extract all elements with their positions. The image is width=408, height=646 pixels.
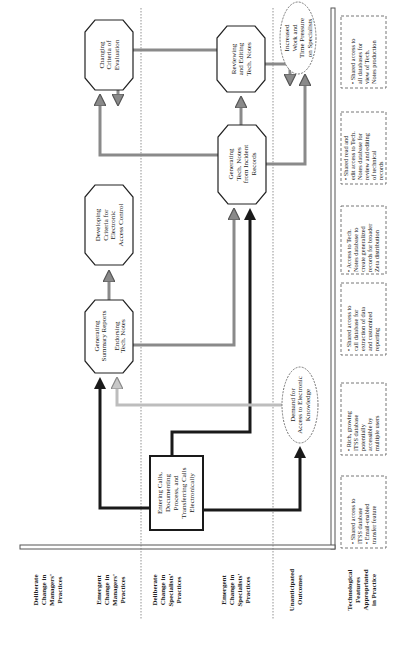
lane-label-deliberate-managers-line: Deliberate xyxy=(32,574,40,605)
arrow-demand-to-summary xyxy=(117,383,282,405)
feature-text-5-line: of technical xyxy=(370,150,377,180)
lane-label-emergent-managers-line: Managers' xyxy=(111,574,119,606)
arrow-entering-to-demand xyxy=(203,452,300,510)
feature-text-6-line: • Shared access to xyxy=(349,39,356,84)
feature-text-4: • Access to Tech. Notes database to crea… xyxy=(345,223,380,272)
lane-label-tech-features-line: Appropriated xyxy=(362,569,370,610)
feature-text-3-line: call database for xyxy=(352,309,359,351)
feature-text-5-line: edit access to Tech. xyxy=(349,131,356,180)
lane-label-tech-features-line: Technological xyxy=(346,569,354,610)
lane-label-unanticipated: UnanticipatedOutcomes xyxy=(288,569,304,612)
feature-text-3-line: extraction of data xyxy=(359,307,366,351)
feature-text-2-line: potentially xyxy=(359,423,366,451)
feature-text-1-line: ITSS database xyxy=(356,508,363,544)
feature-text-3-line: reporting xyxy=(373,327,380,351)
feature-text-1-line: • Shared access to xyxy=(349,499,356,544)
label-demand-access-line: Knowledge xyxy=(304,389,312,421)
label-summary-reports-line: Summary Reports xyxy=(100,310,108,361)
label-increased-work-line: on Specialists xyxy=(306,18,314,57)
feature-text-6: • Shared access to all databases for vie… xyxy=(349,39,377,84)
lane-label-emergent-specialists-line: Change in xyxy=(228,575,236,606)
lane-label-emergent-specialists: EmergentChange inSpecialists'Practices xyxy=(220,573,252,606)
feature-text-1-line: transfer feature xyxy=(370,506,377,544)
feature-text-5-line: records xyxy=(377,161,384,180)
label-changing-criteria-line: Evaluation xyxy=(113,39,121,70)
feature-text-4-line: records for broader xyxy=(366,223,373,272)
lane-label-emergent-managers: EmergentChange inManagers'Practices xyxy=(95,574,127,606)
feature-text-2-line: accessible by xyxy=(366,417,373,451)
lane-label-emergent-managers-line: Emergent xyxy=(95,575,103,605)
feature-text-4-line: Notes database to xyxy=(352,228,359,272)
label-changing-criteria: ChangingCriteria ofEvaluation xyxy=(98,39,121,70)
feature-text-4-line: create generalized xyxy=(359,226,366,272)
feature-boxes xyxy=(341,16,386,548)
lane-label-tech-features-line: Features xyxy=(354,577,362,603)
feature-text-1-line: • Email-enabled xyxy=(363,503,370,544)
feature-text-4-line: Zeta distribution xyxy=(373,229,380,272)
lane-label-deliberate-managers-line: Practices xyxy=(56,576,64,603)
lane-label-deliberate-managers: DeliberateChange inManagers'Practices xyxy=(32,574,64,606)
feature-text-5-line: review and editing xyxy=(363,132,370,180)
label-entering-calls-line: Transferring Calls xyxy=(180,467,188,518)
lane-label-tech-features: TechnologicalFeaturesAppropriatedin Prac… xyxy=(346,569,378,610)
lane-label-emergent-specialists-line: Specialists' xyxy=(236,573,244,606)
diagram-canvas: ChangingCriteria ofEvaluationDevelopingC… xyxy=(0,0,408,646)
arrow-technotes-to-increased xyxy=(266,80,305,164)
lane-label-emergent-managers-line: Change in xyxy=(103,575,111,606)
lane-label-emergent-managers-line: Practices xyxy=(119,576,127,603)
label-entering-calls-line: Documenting xyxy=(164,473,172,512)
feature-text-3-line: • Shared access to xyxy=(345,306,352,351)
label-generating-tech-notes-line: Records xyxy=(250,152,258,175)
label-reviewing-tech-notes-line: Tech. Notes xyxy=(245,42,253,76)
label-reviewing-tech-notes: Reviewingand EditingTech. Notes xyxy=(230,42,253,76)
feature-text-6-line: Notes production xyxy=(370,40,377,84)
label-developing-criteria: DevelopingCriteria forElectronicAccess C… xyxy=(94,203,125,246)
lane-label-deliberate-specialists-line: Change in xyxy=(159,575,167,606)
label-entering-calls-line: Electronically xyxy=(188,473,196,513)
feature-text-6-line: all databases for xyxy=(356,42,363,84)
lane-label-deliberate-specialists-line: Deliberate xyxy=(151,574,159,605)
arrow-summary-to-technotes xyxy=(133,214,234,345)
label-developing-criteria-line: Access Control xyxy=(117,203,125,246)
lane-label-emergent-specialists-line: Practices xyxy=(244,576,252,603)
feature-text-4-line: • Access to Tech. xyxy=(345,229,352,272)
feature-text-5-line: • Shared read and xyxy=(342,135,349,180)
label-entering-calls-line: Process, and xyxy=(172,475,180,510)
feature-text-5-line: Notes database for xyxy=(356,132,363,180)
arrow-entering-to-technotes xyxy=(172,214,250,456)
lane-label-unanticipated-line: Outcomes xyxy=(296,575,304,605)
lane-label-deliberate-specialists-line: Practices xyxy=(175,576,183,603)
arrow-entering-to-summary xyxy=(100,383,150,508)
feature-text-2-line: • Rich, growing xyxy=(345,410,352,451)
lane-label-unanticipated-line: Unanticipated xyxy=(288,569,296,612)
lane-label-deliberate-managers-line: Change in xyxy=(40,575,48,606)
feature-text-2-line: ITSS database xyxy=(352,415,359,451)
label-entering-calls-line: Entering Calls, xyxy=(156,472,164,514)
feature-text-3-line: and customized xyxy=(366,311,373,351)
feature-text-6-line: view of Tech. xyxy=(363,49,370,84)
feature-text-2-line: multiple users xyxy=(373,415,380,451)
arrow-reviewing-to-increased xyxy=(265,64,290,80)
label-summary-reports-line: Tech. Notes xyxy=(119,319,127,353)
lane-label-tech-features-line: in Practice xyxy=(370,574,378,606)
lane-label-deliberate-specialists: DeliberateChange inSpecialists'Practices xyxy=(151,573,183,606)
lane-label-deliberate-managers-line: Managers' xyxy=(48,574,56,606)
arrow-technotes-to-changing xyxy=(100,100,218,155)
lane-label-emergent-specialists-line: Emergent xyxy=(220,575,228,605)
lane-label-deliberate-specialists-line: Specialists' xyxy=(167,573,175,606)
